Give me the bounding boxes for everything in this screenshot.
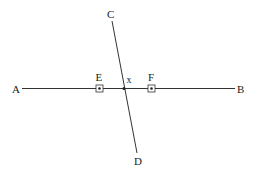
label-d: D [134, 155, 142, 167]
label-b: B [237, 83, 244, 95]
label-a: A [12, 83, 20, 95]
label-intersection-x: x [127, 74, 132, 85]
diagram-canvas: A B C D E F x [0, 0, 256, 174]
point-f-dot [150, 87, 153, 90]
label-f: F [148, 71, 154, 83]
line-cd [112, 21, 137, 153]
point-e [96, 85, 103, 92]
intersection-dot [123, 87, 126, 90]
label-e: E [96, 71, 103, 83]
label-c: C [107, 8, 114, 20]
point-f [148, 85, 155, 92]
point-e-dot [98, 87, 101, 90]
